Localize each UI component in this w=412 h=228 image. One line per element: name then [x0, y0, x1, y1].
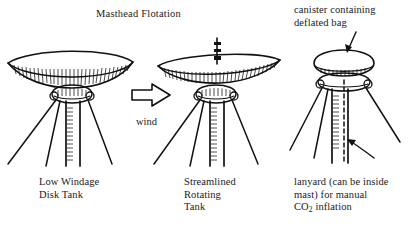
disk-hatching: [14, 64, 130, 85]
caption-line-2: mast) for manual: [294, 189, 367, 200]
caption-streamlined-rotating-tank: Streamlined Rotating Tank: [184, 176, 236, 214]
caption-low-windage-disk-tank: Low Windage Disk Tank: [39, 176, 99, 201]
shrouds: [8, 100, 112, 166]
mast: [210, 101, 224, 166]
callout-canister-label: canister containing deflated bag: [294, 4, 376, 29]
mast: [332, 80, 348, 163]
lanyard-callout-arrow: [347, 139, 374, 158]
figure-canister-masthead: [288, 30, 412, 170]
caption-line-3-subscript: 2: [309, 205, 313, 214]
caption-canister-masthead: lanyard (can be insidemast) for manualCO…: [294, 176, 389, 215]
mast: [66, 101, 80, 166]
spindle: [214, 38, 221, 64]
figure-streamlined-rotating-tank: [152, 30, 302, 173]
figure-low-windage-disk-tank: [0, 38, 150, 173]
shrouds: [154, 100, 258, 166]
shrouds: [290, 88, 400, 158]
canister: [314, 50, 374, 76]
diagram-title: Masthead Flotation: [96, 8, 181, 19]
caption-line-3-pre: CO: [294, 201, 309, 212]
caption-line-3-post: inflation: [313, 201, 352, 212]
caption-line-1: lanyard (can be inside: [294, 176, 389, 187]
diagram-canvas: Masthead Flotation: [0, 0, 412, 228]
